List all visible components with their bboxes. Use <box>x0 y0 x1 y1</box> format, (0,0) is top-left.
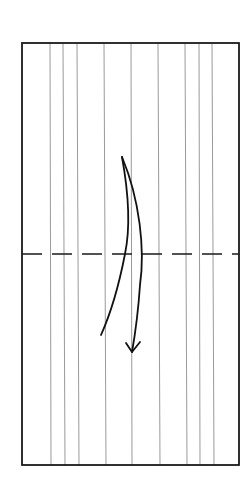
fold-diagram <box>0 0 252 490</box>
